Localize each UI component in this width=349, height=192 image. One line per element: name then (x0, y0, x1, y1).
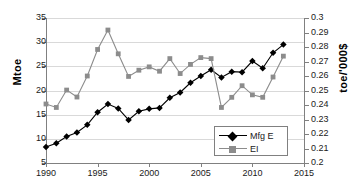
data-point-diamond-icon (146, 106, 153, 113)
series-line (46, 30, 283, 107)
data-point-square-icon (281, 54, 286, 59)
data-point-square-icon (75, 95, 80, 100)
data-point-square-icon (198, 55, 203, 60)
data-point-square-icon (209, 56, 214, 61)
data-point-square-icon (157, 69, 162, 74)
data-point-square-icon (126, 74, 131, 79)
data-point-square-icon (271, 75, 276, 80)
data-point-square-icon (85, 74, 90, 79)
data-point-diamond-icon (229, 68, 236, 75)
data-point-square-icon (116, 51, 121, 56)
data-point-diamond-icon (63, 133, 70, 140)
data-point-square-icon (136, 68, 141, 73)
data-point-square-icon (54, 105, 59, 110)
legend-marker-square-icon (219, 143, 247, 155)
legend-marker-diamond-icon (219, 130, 247, 142)
data-point-square-icon (240, 83, 245, 88)
data-point-diamond-icon (259, 65, 266, 72)
data-point-square-icon (147, 64, 152, 69)
data-point-square-icon (95, 47, 100, 52)
data-point-square-icon (219, 105, 224, 110)
data-point-square-icon (64, 88, 69, 93)
legend-item-mfg-e: Mfg E (219, 129, 274, 142)
data-point-square-icon (260, 95, 265, 100)
data-point-diamond-icon (198, 73, 205, 80)
legend-item-ei: EI (219, 142, 259, 155)
data-point-square-icon (178, 71, 183, 76)
legend-label: EI (250, 144, 259, 154)
data-point-diamond-icon (43, 144, 50, 151)
legend: Mfg E EI (214, 126, 288, 156)
legend-label: Mfg E (250, 131, 274, 141)
data-point-square-icon (44, 102, 49, 107)
data-point-square-icon (250, 92, 255, 97)
data-point-diamond-icon (53, 140, 60, 147)
data-point-square-icon (229, 95, 234, 100)
data-point-square-icon (167, 56, 172, 61)
data-point-square-icon (106, 28, 111, 33)
data-point-square-icon (188, 62, 193, 67)
